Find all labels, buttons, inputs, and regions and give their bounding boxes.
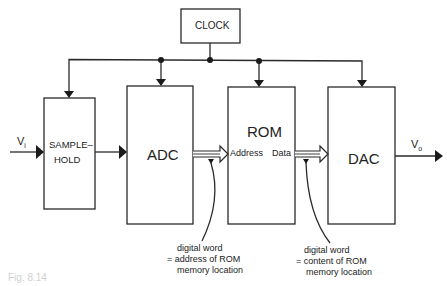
input-arrow-head — [36, 145, 44, 159]
rom-address-port-label: Address — [230, 148, 263, 158]
address-annotation: digital word = address of ROM memory loc… — [167, 243, 243, 276]
bus-junction — [207, 57, 213, 63]
output-signal-sub: o — [418, 145, 422, 152]
rom-label: ROM — [247, 123, 282, 140]
data-annotation: digital word = content of ROM memory loc… — [296, 245, 372, 278]
arrow-to-sample-hold — [64, 91, 74, 98]
address-leader-line — [202, 163, 215, 241]
rom-data-port-label: Data — [272, 148, 291, 158]
data-leader-line — [306, 163, 330, 243]
output-arrow-head — [435, 150, 443, 162]
address-note-line: = address of ROM — [167, 254, 243, 265]
address-note-line: digital word — [167, 243, 243, 254]
bus-junction — [158, 57, 164, 63]
data-note-line: digital word — [296, 245, 372, 256]
adc-label: ADC — [147, 146, 179, 163]
data-note-line: = content of ROM — [296, 256, 372, 267]
figure-caption: Fig. 8.14 — [8, 272, 47, 283]
arrow-to-adc — [156, 79, 166, 86]
bus-junction — [256, 58, 262, 64]
clock-label: CLOCK — [195, 20, 229, 31]
arrow-to-dac — [357, 80, 367, 87]
sample-hold-label-1: SAMPLE– — [49, 139, 93, 150]
clock-bus — [69, 60, 362, 98]
sample-hold-label-2: HOLD — [54, 154, 80, 165]
address-note-line: memory location — [167, 265, 243, 276]
output-signal-label: Vo — [411, 138, 422, 152]
input-signal-label: Vi — [17, 135, 26, 149]
data-note-line: memory location — [296, 267, 372, 278]
input-signal-sub: i — [24, 142, 26, 149]
sh-adc-arrow-head — [119, 145, 127, 159]
dac-label: DAC — [348, 150, 380, 167]
arrow-to-rom — [254, 80, 264, 87]
